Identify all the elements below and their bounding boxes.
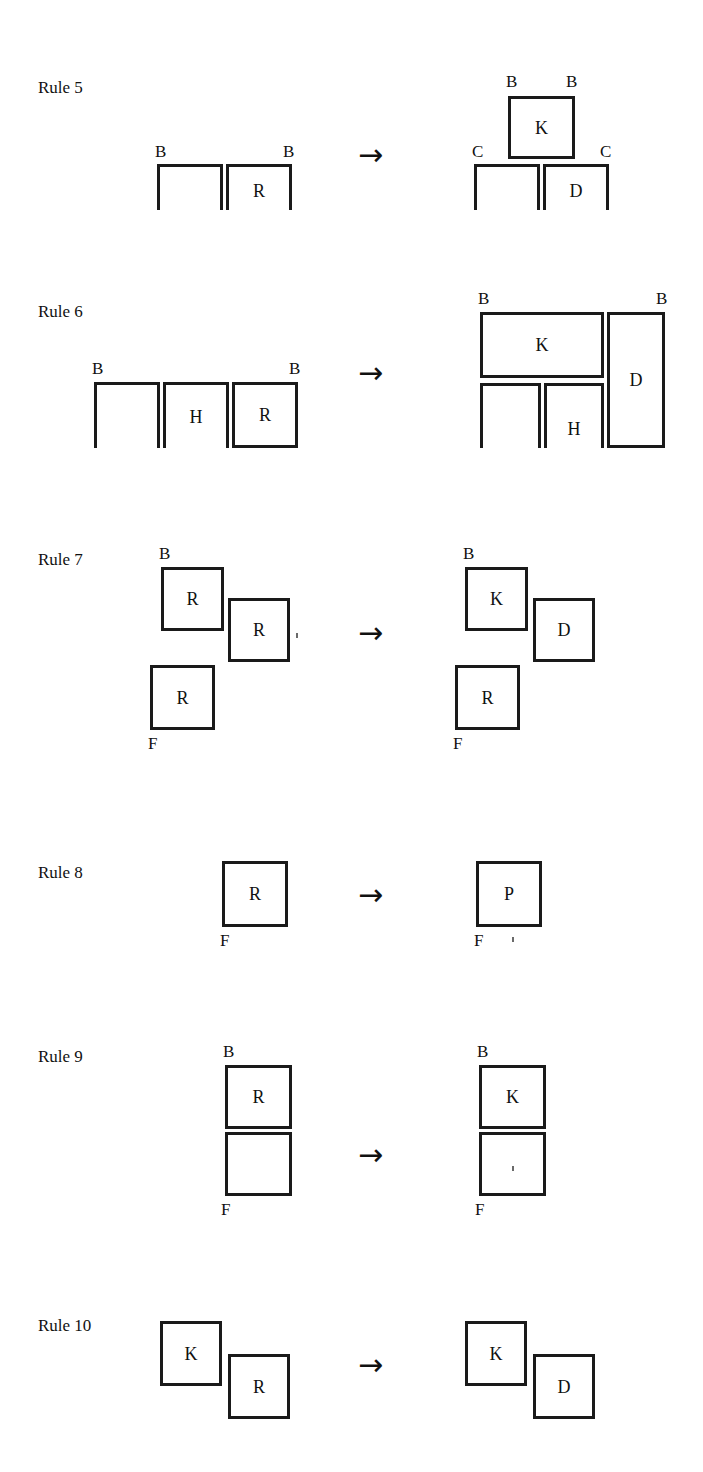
rule-6-lhs-open-box-1 [94,382,160,448]
rewrite-arrow-icon-rule-7: → [358,618,383,648]
rule-5-lhs-tag-b-left: B [155,143,166,160]
rule-9-rhs-box-k-top-letter: K [482,1088,543,1106]
speck-rule9 [512,1166,514,1171]
rule-9-lhs-box-r-top: R [225,1065,292,1129]
rule-7-lhs-box-r-mid: R [228,598,290,662]
rule-6-rhs-box-d-letter: D [610,371,662,389]
rule-7-lhs-box-r-top-letter: R [164,590,221,608]
rule-7-lhs-tag-b: B [159,545,170,562]
rule-9-rhs-box-k-top: K [479,1065,546,1129]
rule-9-lhs-tag-b: B [223,1043,234,1060]
rewrite-arrow-icon-rule-8: → [358,880,383,910]
rule-7-rhs-box-r: R [455,665,520,730]
rule-5-rhs-open-box-right: D [543,164,609,210]
rule-6-lhs-open-box-h-letter: H [166,408,226,426]
rule-10-rhs-box-d-letter: D [536,1378,592,1396]
rule-10-lhs-box-r: R [228,1354,290,1419]
rule-6-rhs-box-d: D [607,312,665,448]
rule-label-rule-7: Rule 7 [38,551,83,568]
rule-6-rhs-open-box-h-letter: H [547,420,601,438]
rule-label-rule-8: Rule 8 [38,864,83,881]
rule-7-rhs-box-k-letter: K [468,590,525,608]
rule-5-rhs-box-k-letter: K [511,119,572,137]
rule-8-lhs-box-r-letter: R [225,885,285,903]
rule-8-rhs-box-p-letter: P [479,885,539,903]
rule-9-rhs-box-empty-bottom [479,1132,546,1196]
rule-7-rhs-box-d: D [533,598,595,662]
rule-6-lhs-open-box-h: H [163,382,229,448]
rule-8-lhs-tag-f: F [220,932,229,949]
rule-6-rhs-box-k: K [480,312,604,378]
rule-9-lhs-box-r-top-letter: R [228,1088,289,1106]
rule-7-lhs-box-r-top: R [161,567,224,631]
rule-10-rhs-box-k-letter: K [468,1345,524,1363]
rule-6-lhs-box-r-letter: R [235,406,295,424]
rule-10-lhs-box-k-letter: K [163,1345,219,1363]
speck-rule8 [512,937,514,942]
rule-10-lhs-box-k: K [160,1321,222,1386]
rewrite-arrow-icon-rule-9: → [358,1140,383,1170]
rule-5-rhs-tag-b-right: B [566,73,577,90]
rule-5-lhs-open-box-right-letter: R [229,182,289,200]
rewrite-arrow-icon-rule-5: → [358,140,383,170]
rule-5-rhs-tag-c-left: C [472,143,483,160]
rule-5-rhs-tag-b-left: B [506,73,517,90]
rule-5-lhs-open-box-left [157,164,223,210]
rule-5-lhs-tag-b-right: B [283,143,294,160]
rule-5-rhs-open-box-right-letter: D [546,182,606,200]
rule-7-rhs-box-r-letter: R [458,689,517,707]
rule-5-rhs-tag-c-right: C [600,143,611,160]
rule-8-lhs-box-r: R [222,861,288,927]
rule-6-rhs-tag-b-right: B [656,290,667,307]
rule-7-rhs-box-k: K [465,567,528,631]
rule-label-rule-5: Rule 5 [38,79,83,96]
rule-6-lhs-tag-b-right: B [289,360,300,377]
rule-6-rhs-box-k-letter: K [483,336,601,354]
rule-10-rhs-box-d: D [533,1354,595,1419]
rule-7-lhs-box-r-bottom-letter: R [153,689,212,707]
rule-7-rhs-tag-b: B [463,545,474,562]
rule-5-lhs-open-box-right: R [226,164,292,210]
rule-5-rhs-open-box-left [474,164,540,210]
rule-8-rhs-tag-f: F [474,932,483,949]
rule-6-rhs-open-box-h: H [544,383,604,448]
rule-6-rhs-open-box-1 [480,383,541,448]
rule-9-lhs-tag-f: F [221,1201,230,1218]
rule-9-rhs-tag-b: B [477,1043,488,1060]
speck-rule7 [296,633,298,638]
rule-7-rhs-tag-f: F [453,735,462,752]
rule-6-lhs-box-r: R [232,382,298,448]
rewrite-arrow-icon-rule-10: → [358,1350,383,1380]
rule-10-lhs-box-r-letter: R [231,1378,287,1396]
rule-6-lhs-tag-b-left: B [92,360,103,377]
rule-5-rhs-box-k: K [508,96,575,159]
rules-diagram-sheet: Rule 5→RBBKDBBCCRule 6→HRBBKHDBBRule 7→R… [0,0,703,1472]
rule-label-rule-9: Rule 9 [38,1048,83,1065]
rule-label-rule-6: Rule 6 [38,303,83,320]
rule-9-rhs-tag-f: F [475,1201,484,1218]
rule-7-lhs-box-r-bottom: R [150,665,215,730]
rule-8-rhs-box-p: P [476,861,542,927]
rule-label-rule-10: Rule 10 [38,1317,91,1334]
rule-6-rhs-tag-b-left: B [478,290,489,307]
rule-10-rhs-box-k: K [465,1321,527,1386]
rule-7-lhs-tag-f: F [148,735,157,752]
rewrite-arrow-icon-rule-6: → [358,358,383,388]
rule-9-lhs-box-empty-bottom [225,1132,292,1196]
rule-7-lhs-box-r-mid-letter: R [231,621,287,639]
rule-7-rhs-box-d-letter: D [536,621,592,639]
